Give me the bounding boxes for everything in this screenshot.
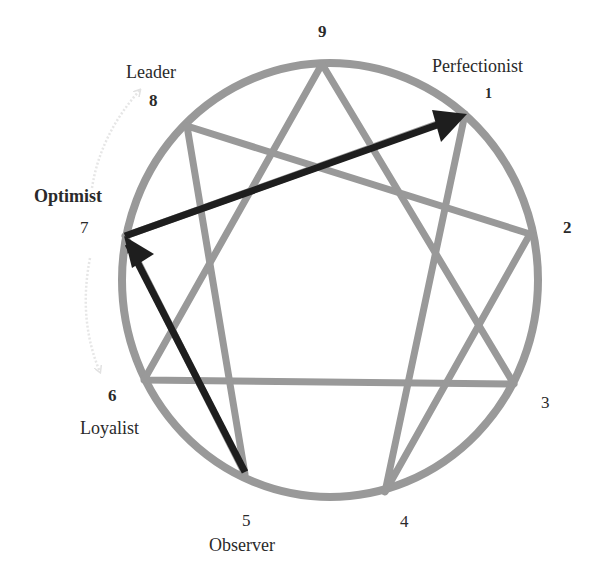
point-2-number: 2 [563, 218, 572, 238]
point-7-number: 7 [80, 218, 89, 238]
point-6-number: 6 [108, 386, 117, 406]
arrowhead-at-7 [124, 236, 154, 268]
point-1-label: Perfectionist [432, 56, 523, 77]
enneagram-diagram [0, 0, 606, 577]
point-8-number: 8 [149, 91, 158, 111]
point-1-number: 1 [485, 86, 492, 102]
faint-arrow-7-to-6 [86, 258, 100, 372]
point-7-label: Optimist [34, 186, 102, 207]
point-9-number: 9 [318, 22, 327, 42]
point-4-number: 4 [400, 512, 409, 532]
point-8-label: Leader [126, 62, 176, 83]
point-5-label: Observer [209, 535, 275, 556]
point-3-number: 3 [541, 393, 550, 413]
faint-arrow-7-to-8 [92, 90, 140, 188]
point-6-label: Loyalist [80, 418, 139, 439]
point-5-number: 5 [242, 511, 251, 531]
